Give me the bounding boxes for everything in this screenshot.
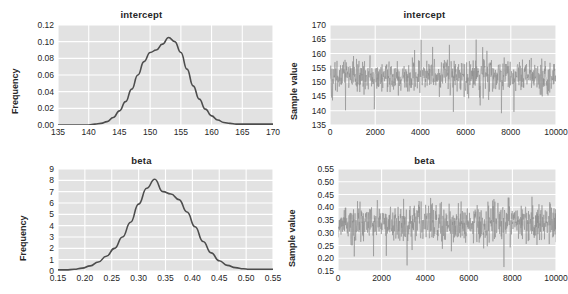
x-tick-label: 140 — [82, 128, 96, 137]
y-tick-label: 0.20 — [288, 254, 334, 263]
x-tick-label: 135 — [51, 128, 65, 137]
x-tick-label: 0.30 — [130, 274, 147, 283]
y-tick-label: 4 — [8, 221, 54, 230]
panel-intercept-trace: intercept Sample value 13514014515015516… — [283, 0, 566, 147]
x-tick-label: 8000 — [501, 128, 520, 137]
x-tick-label: 0.55 — [265, 274, 282, 283]
x-tick-label: 4000 — [416, 274, 435, 283]
y-tick-label: 0.10 — [8, 37, 54, 46]
x-tick-label: 6000 — [456, 128, 475, 137]
y-tick-label: 0.02 — [8, 104, 54, 113]
y-tick-label: 0.08 — [8, 54, 54, 63]
y-tick-label: 165 — [280, 35, 326, 44]
y-tick-label: 140 — [280, 106, 326, 115]
y-tick-label: 155 — [280, 64, 326, 73]
y-tick-label: 1 — [8, 255, 54, 264]
x-axis-ticks: 135140145150155160165170 — [0, 128, 283, 142]
density-curve-svg — [58, 169, 273, 271]
x-tick-label: 4000 — [411, 128, 430, 137]
trace-line-svg — [330, 25, 556, 125]
y-tick-label: 0.35 — [288, 216, 334, 225]
panel-beta-density: beta Frequency 0123456789 0.150.200.250.… — [0, 147, 283, 294]
x-tick-label: 150 — [143, 128, 157, 137]
x-axis-ticks: 0200040006000800010000 — [283, 274, 566, 288]
x-tick-label: 2000 — [366, 128, 385, 137]
y-axis-ticks: 0123456789 — [0, 147, 55, 294]
y-tick-label: 0.45 — [288, 190, 334, 199]
x-axis-ticks: 0.150.200.250.300.350.400.450.500.55 — [0, 274, 283, 288]
x-tick-label: 6000 — [459, 274, 478, 283]
x-tick-label: 0.40 — [184, 274, 201, 283]
y-tick-label: 0.12 — [8, 21, 54, 30]
x-axis-ticks: 0200040006000800010000 — [283, 128, 566, 142]
x-tick-label: 0.50 — [238, 274, 255, 283]
y-tick-label: 0.25 — [288, 241, 334, 250]
x-tick-label: 0 — [328, 128, 333, 137]
x-tick-label: 10000 — [544, 274, 568, 283]
y-tick-label: 9 — [8, 165, 54, 174]
panel-beta-trace: beta Sample value 0.150.200.250.300.350.… — [283, 147, 566, 294]
y-tick-label: 170 — [280, 21, 326, 30]
x-tick-label: 8000 — [503, 274, 522, 283]
x-tick-label: 145 — [112, 128, 126, 137]
x-tick-label: 0.15 — [50, 274, 67, 283]
plot-area — [58, 25, 273, 125]
y-tick-label: 6 — [8, 199, 54, 208]
y-tick-label: 160 — [280, 49, 326, 58]
y-tick-label: 150 — [280, 78, 326, 87]
trace-line-svg — [338, 169, 556, 271]
plot-area — [58, 169, 273, 271]
y-tick-label: 8 — [8, 176, 54, 185]
plot-area — [338, 169, 556, 271]
density-curve-svg — [58, 25, 273, 125]
y-tick-label: 5 — [8, 210, 54, 219]
x-tick-label: 170 — [266, 128, 280, 137]
x-tick-label: 0.20 — [77, 274, 94, 283]
y-tick-label: 0.55 — [288, 165, 334, 174]
x-tick-label: 10000 — [544, 128, 568, 137]
plot-area — [330, 25, 556, 125]
y-tick-label: 145 — [280, 92, 326, 101]
x-tick-label: 0.45 — [211, 274, 228, 283]
y-tick-label: 0.06 — [8, 71, 54, 80]
y-tick-label: 0.04 — [8, 87, 54, 96]
x-tick-label: 0.35 — [157, 274, 174, 283]
y-axis-ticks: 0.000.020.040.060.080.100.12 — [0, 0, 55, 147]
y-tick-label: 7 — [8, 187, 54, 196]
y-tick-label: 2 — [8, 244, 54, 253]
x-tick-label: 165 — [235, 128, 249, 137]
x-tick-label: 0.25 — [103, 274, 120, 283]
x-tick-label: 2000 — [372, 274, 391, 283]
y-tick-label: 0.40 — [288, 203, 334, 212]
y-tick-label: 0.30 — [288, 229, 334, 238]
y-axis-ticks: 135140145150155160165170 — [283, 0, 327, 147]
x-tick-label: 155 — [174, 128, 188, 137]
y-axis-ticks: 0.150.200.250.300.350.400.450.500.55 — [283, 147, 335, 294]
x-tick-label: 160 — [204, 128, 218, 137]
y-tick-label: 0.50 — [288, 178, 334, 187]
y-tick-label: 3 — [8, 233, 54, 242]
x-tick-label: 0 — [336, 274, 341, 283]
panel-intercept-density: intercept Frequency 0.000.020.040.060.08… — [0, 0, 283, 147]
